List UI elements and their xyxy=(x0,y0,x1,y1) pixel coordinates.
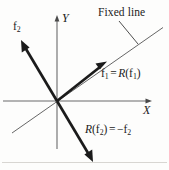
bottom-rule xyxy=(2,162,167,163)
vector-f2 xyxy=(21,40,57,101)
vector-f1-shaft xyxy=(57,67,100,101)
equation-rf2-rhs-subscript: 2 xyxy=(127,128,131,137)
vector-f2-shaft xyxy=(26,49,57,101)
vector-f2-label-subscript: 2 xyxy=(17,25,21,34)
y-axis-label: Y xyxy=(62,12,69,24)
equation-rf2-label: R(f2)=−f2 xyxy=(85,124,131,137)
fixed-line-label: Fixed line xyxy=(98,7,145,19)
equation-rf2-rhs-sign: −f xyxy=(117,123,127,135)
x-axis-label: X xyxy=(143,104,150,116)
equation-rf2-operator: = xyxy=(107,123,117,135)
y-axis xyxy=(55,15,60,149)
equation-rf2-lhs-function: R xyxy=(85,123,92,135)
y-axis-arrowhead xyxy=(55,15,60,22)
vector-f1 xyxy=(57,62,107,102)
diagram-canvas xyxy=(0,0,169,170)
vector-f2-label: f2 xyxy=(13,21,21,34)
equation-f1-rhs-open: (f xyxy=(125,67,133,79)
equation-f1-label: f1=R(f1) xyxy=(101,68,141,81)
x-axis xyxy=(3,99,152,104)
vector-rf2-shaft xyxy=(57,101,88,153)
equation-f1-operator: = xyxy=(109,67,119,79)
reflection-diagram: Fixed line Y X f2 f1=R(f1) R(f2)=−f2 xyxy=(0,0,169,170)
equation-f1-rhs-close: ) xyxy=(137,67,141,79)
fixed-line-leader xyxy=(119,21,138,44)
equation-rf2-lhs-open: (f xyxy=(92,123,100,135)
